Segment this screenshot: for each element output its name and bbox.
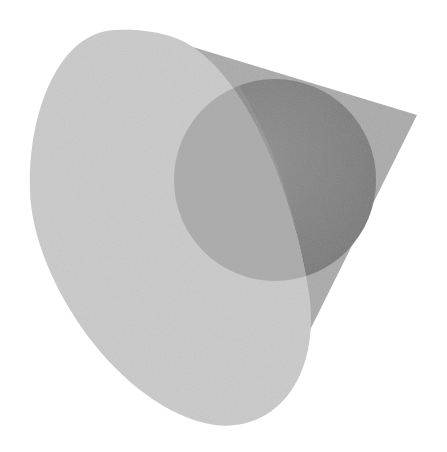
cone-sphere-render [0,0,447,452]
